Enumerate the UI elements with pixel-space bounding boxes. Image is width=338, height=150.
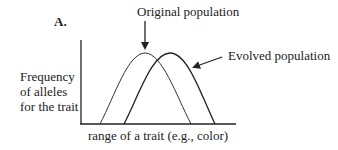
evolved-population-curve [124,53,215,124]
evolved-arrow-icon [194,57,222,67]
original-population-curve [100,53,191,124]
chart-canvas [0,0,338,150]
